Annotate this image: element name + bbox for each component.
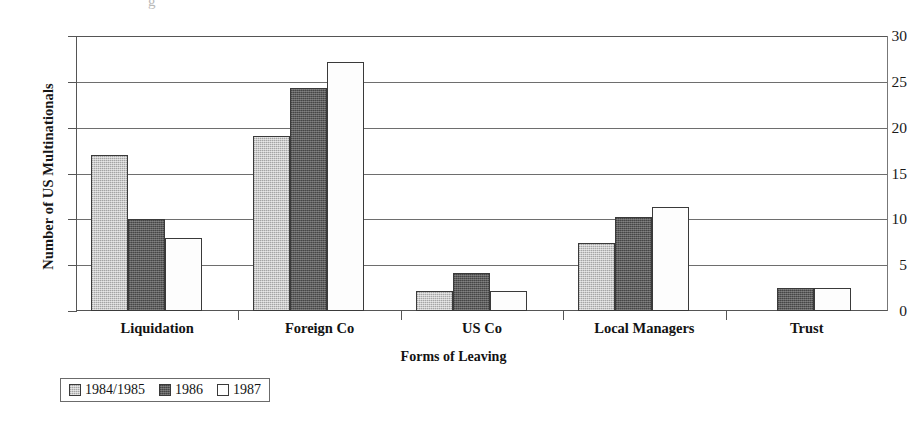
x-axis-label-us-co: US Co — [401, 320, 563, 337]
x-axis-separator — [726, 311, 727, 320]
legend-label: 1984/1985 — [85, 382, 145, 398]
bar-liquidation-19841985 — [91, 155, 128, 311]
x-axis-separator — [238, 311, 239, 320]
bar-foreign-co-1986 — [290, 88, 327, 311]
bar-foreign-co-1987 — [327, 62, 364, 311]
legend-swatch-icon — [217, 384, 229, 396]
x-axis-title: Forms of Leaving — [0, 349, 907, 365]
legend-swatch-icon — [159, 384, 171, 396]
legend-entry-19841985: 1984/1985 — [69, 382, 145, 398]
cropped-title-remnant: g — [148, 0, 156, 10]
legend-entry-1986: 1986 — [159, 382, 203, 398]
bars-layer — [77, 36, 887, 311]
x-axis-separator — [563, 311, 564, 320]
bar-us-co-1986 — [453, 273, 490, 312]
y-axis-title: Number of US Multinationals — [40, 37, 57, 317]
bar-foreign-co-19841985 — [253, 136, 290, 311]
legend-label: 1986 — [175, 382, 203, 398]
x-axis-label-foreign-co: Foreign Co — [238, 320, 400, 337]
bar-chart: g Number of US Multinationals 0510152025… — [0, 0, 907, 425]
bar-local-managers-19841985 — [578, 243, 615, 311]
y-axis-tick-mark — [68, 311, 77, 312]
x-axis-label-trust: Trust — [726, 320, 888, 337]
bar-liquidation-1986 — [128, 219, 165, 311]
x-axis-separator — [401, 311, 402, 320]
legend-entry-1987: 1987 — [217, 382, 261, 398]
legend-label: 1987 — [233, 382, 261, 398]
legend-swatch-icon — [69, 384, 81, 396]
bar-trust-1987 — [814, 288, 851, 311]
x-axis-label-local-managers: Local Managers — [563, 320, 725, 337]
x-axis-label-liquidation: Liquidation — [76, 320, 238, 337]
bar-us-co-19841985 — [416, 291, 453, 311]
legend: 1984/198519861987 — [60, 378, 270, 402]
bar-us-co-1987 — [490, 291, 527, 311]
bar-local-managers-1986 — [615, 217, 652, 311]
bar-liquidation-1987 — [165, 238, 202, 311]
bar-local-managers-1987 — [652, 207, 689, 311]
bar-trust-1986 — [777, 288, 814, 311]
